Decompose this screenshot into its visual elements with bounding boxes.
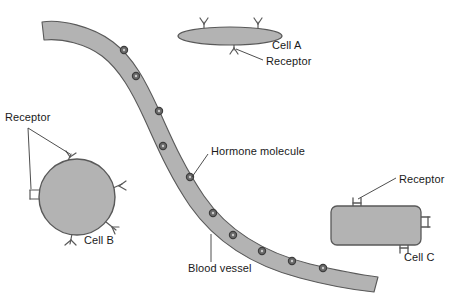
cell-b-label: Cell B <box>84 235 114 246</box>
diagram-canvas: Cell A Receptor Receptor Cell B Hormone … <box>0 0 456 305</box>
hormone-molecule <box>319 264 326 271</box>
hormone-molecule <box>288 257 295 264</box>
cell-b-body <box>39 159 115 235</box>
hormone-molecule <box>120 46 127 53</box>
receptor-icon <box>65 234 76 245</box>
cell-b <box>28 128 126 245</box>
receptor-icon <box>113 181 126 190</box>
hormone-molecule <box>258 247 265 254</box>
blood-vessel-band <box>42 21 378 292</box>
blood-vessel <box>42 21 378 292</box>
cell-c-label: Cell C <box>404 252 435 263</box>
cell-a <box>178 18 282 60</box>
hormone-molecule-leader <box>192 154 208 177</box>
receptor-a-leader <box>236 49 263 60</box>
hormone-molecule <box>159 142 166 149</box>
hormone-molecule <box>155 107 162 114</box>
receptor-a-label: Receptor <box>266 56 311 67</box>
cell-c <box>331 178 430 253</box>
blood-vessel-label: Blood vessel <box>188 263 252 274</box>
hormone-molecule-label: Hormone molecule <box>211 146 305 157</box>
hormone-molecule <box>229 231 236 238</box>
receptor-c-leader <box>358 178 396 199</box>
cell-a-body <box>178 27 282 45</box>
receptor-icon <box>353 198 361 206</box>
hormone-molecule <box>132 72 139 79</box>
receptor-b-leader-1 <box>28 128 70 154</box>
receptor-icon <box>421 217 430 227</box>
receptor-c-label: Receptor <box>399 174 444 185</box>
receptor-b-leader-2 <box>28 128 31 189</box>
cell-c-body <box>331 206 421 245</box>
cell-a-label: Cell A <box>272 40 301 51</box>
receptor-icon <box>106 222 119 234</box>
hormone-molecule <box>209 209 216 216</box>
receptor-b-label: Receptor <box>5 112 50 123</box>
